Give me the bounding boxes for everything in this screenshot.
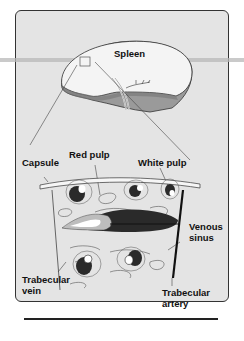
bottom-rule — [24, 318, 218, 320]
label-spleen: Spleen — [114, 48, 145, 59]
label-trabecular-vein: Trabecular vein — [22, 274, 70, 296]
label-capsule: Capsule — [22, 157, 59, 168]
trabecular-artery-wall — [173, 190, 183, 278]
label-red-pulp: Red pulp — [69, 149, 110, 160]
label-venous-sinus: Venous sinus — [189, 221, 223, 243]
central-vessel — [62, 210, 180, 232]
red-pulp-cords — [58, 193, 167, 288]
capsule-band — [40, 178, 200, 189]
label-trabecular-artery: Trabecular artery — [162, 287, 210, 309]
label-white-pulp: White pulp — [138, 157, 187, 168]
